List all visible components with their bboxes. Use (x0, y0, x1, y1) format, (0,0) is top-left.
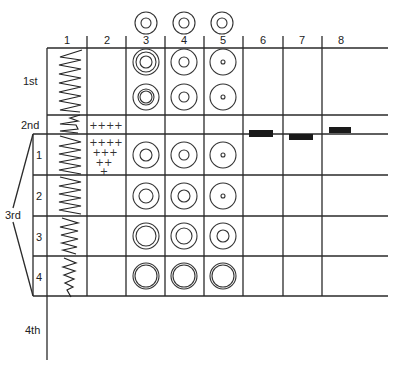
cell-1st-b-col3 (133, 84, 159, 110)
tooth-development-diagram: 1 2 3 4 5 6 7 8 (0, 0, 397, 369)
plus-row-2nd: ++++ (89, 120, 123, 131)
row-labels: 1st 2nd 3rd 4th 1 2 3 4 (5, 75, 42, 336)
row-label-3rd: 3rd (5, 209, 21, 221)
cell-1st-a-col5 (210, 49, 236, 75)
cell-1st-b-col5 (210, 84, 236, 110)
column-header-4: 4 (181, 34, 187, 46)
top-circle-col5 (211, 12, 233, 34)
zigzag-sub1 (59, 136, 81, 174)
cell-3rd-1-col3 (133, 142, 159, 168)
row-label-1st: 1st (23, 75, 38, 87)
column-header-6: 6 (260, 34, 266, 46)
cell-3rd-3-col3 (133, 223, 159, 249)
zigzag-2nd (60, 115, 80, 133)
sub-row-label-1: 1 (36, 149, 42, 161)
top-circle-col3 (135, 12, 157, 34)
zigzag-sub2 (59, 177, 81, 214)
top-circle-col4 (173, 12, 195, 34)
cell-1st-b-col4 (171, 84, 197, 110)
cell-3rd-3-col5 (210, 223, 236, 249)
sub-row-label-2: 2 (36, 190, 42, 202)
row-label-4th: 4th (25, 324, 40, 336)
cell-3rd-1-col5 (210, 142, 236, 168)
plus-sub1-line4: + (100, 166, 108, 177)
zigzag-sub4 (63, 258, 76, 297)
bar-col6 (249, 130, 273, 137)
row-label-2nd: 2nd (21, 119, 39, 131)
cell-3rd-1-col4 (171, 142, 197, 168)
column-header-2: 2 (104, 34, 110, 46)
cell-3rd-2-col3 (133, 183, 159, 209)
bar-col8 (329, 127, 351, 133)
cell-3rd-2-col5 (210, 183, 236, 209)
bar-col7 (289, 134, 313, 140)
column-header-8: 8 (338, 34, 344, 46)
ring-cells (133, 49, 236, 289)
cell-3rd-2-col4 (171, 183, 197, 209)
column-header-5: 5 (220, 34, 226, 46)
sub-row-label-4: 4 (36, 271, 42, 283)
sub-row-label-3: 3 (36, 231, 42, 243)
zigzag-1st (59, 50, 82, 112)
top-circles (135, 12, 233, 34)
cell-3rd-4-col3 (133, 263, 159, 289)
cell-1st-a-col4 (171, 49, 197, 75)
column-header-1: 1 (64, 34, 70, 46)
cell-3rd-3-col4 (171, 223, 197, 249)
cell-3rd-4-col4 (171, 263, 197, 289)
zigzag-sub3 (60, 218, 78, 254)
zigzag-column-1 (59, 50, 82, 297)
cell-3rd-4-col5 (210, 263, 236, 289)
cell-1st-a-col3 (133, 49, 159, 75)
plus-marks-column-2: ++++ ++++ +++ ++ + (89, 120, 123, 177)
column-header-3: 3 (143, 34, 149, 46)
column-header-7: 7 (299, 34, 305, 46)
